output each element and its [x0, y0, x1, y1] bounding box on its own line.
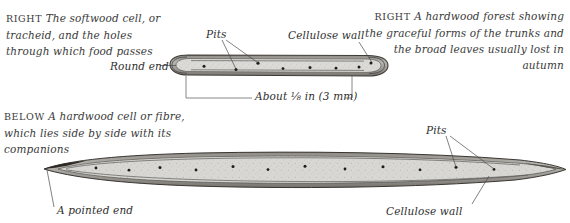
label-cellulose-wall-top: Cellulose wall [288, 29, 364, 42]
pit-dot [344, 168, 347, 171]
diagram-artwork [0, 0, 570, 223]
label-pointed-end: A pointed end [57, 204, 133, 217]
pit-dot [335, 67, 338, 70]
pit-dot [382, 165, 385, 168]
label-cellulose-wall-bottom: Cellulose wall [386, 205, 462, 218]
pit-dot [419, 168, 422, 171]
dimension-bracket-left [186, 76, 252, 98]
pit-dot [95, 167, 98, 170]
pit-dot [128, 169, 131, 172]
pit-dot [282, 67, 285, 70]
leader-pointed-end [47, 170, 54, 207]
pit-dot [203, 65, 206, 68]
tracheid-inner-line [191, 61, 364, 62]
pit-dot [370, 62, 373, 65]
pit-dot [195, 169, 198, 172]
hardwood-fibre-figure [44, 136, 566, 207]
pit-dot [232, 165, 235, 168]
pit-dot [358, 66, 361, 69]
pit-dot [159, 166, 162, 169]
label-pits-top: Pits [206, 28, 227, 41]
illustration-page: RIGHT The softwood cell, or tracheid, an… [0, 0, 570, 223]
pit-dot [267, 168, 270, 171]
label-round-end: Round end [110, 60, 169, 73]
label-pits-bottom: Pits [426, 124, 447, 137]
pit-dot [304, 165, 307, 168]
pit-dot [309, 66, 312, 69]
label-scale-measurement: About ⅛ in (3 mm) [255, 90, 358, 103]
